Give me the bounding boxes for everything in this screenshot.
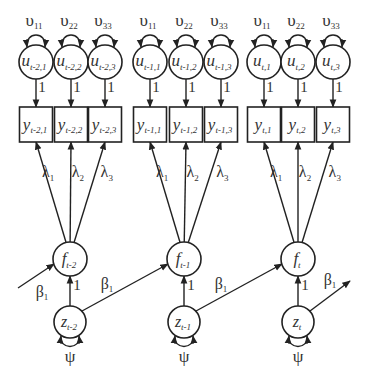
- variance-label-sub: 33: [103, 21, 113, 31]
- factor-loading: [74, 142, 105, 242]
- fixed-loading-label-base: 1: [152, 79, 160, 95]
- factor-loading: [264, 142, 294, 242]
- beta-label: β1: [324, 271, 337, 290]
- variance-label-base: υ: [139, 11, 147, 30]
- fixed-loading-label: 1: [266, 79, 274, 95]
- fixed-loading-label: 1: [152, 79, 160, 95]
- factor-node: [53, 242, 87, 276]
- indicator-label-sub: t-1,1: [144, 125, 161, 135]
- lambda-label-sub: 2: [307, 173, 312, 183]
- indicator-label-base: y: [287, 115, 297, 134]
- unique-factor-label-base: u: [90, 51, 99, 70]
- lambda-label: λ2: [187, 163, 199, 183]
- variance-label-sub: 11: [262, 21, 271, 31]
- variance-label-sub: 33: [219, 21, 229, 31]
- variance-label-base: υ: [175, 11, 183, 30]
- fixed-loading-label: 1: [38, 79, 46, 95]
- variance-label-sub: 11: [148, 21, 157, 31]
- indicator-label-base: y: [206, 115, 216, 134]
- psi-label: ψ: [179, 347, 190, 366]
- indicator-label-base: y: [253, 115, 263, 134]
- unique-factor-label-sub: t-1,1: [144, 62, 161, 72]
- beta-label: β1: [215, 275, 228, 294]
- fixed-loading-label-base: 1: [73, 79, 81, 95]
- fixed-loading-label-base: 1: [188, 79, 196, 95]
- factor-label-sub: t-1: [180, 260, 190, 270]
- lambda-label-sub: 3: [336, 173, 341, 183]
- unique-factor-label-base: u: [21, 51, 30, 70]
- beta-label-sub: 1: [44, 292, 49, 302]
- fixed-loading-label-base: 1: [335, 79, 343, 95]
- factor-node: [167, 242, 201, 276]
- indicator-label-sub: t-2,1: [30, 125, 47, 135]
- variance-label: υ11: [253, 11, 270, 31]
- beta-path: [196, 264, 282, 311]
- indicator-label-sub: t-2,2: [65, 125, 82, 135]
- lambda-label: λ3: [101, 163, 114, 183]
- fixed-loading-label-base: 1: [300, 79, 308, 95]
- unique-factor-label-sub: t-1,3: [215, 62, 232, 72]
- lambda-label-sub: 1: [278, 173, 283, 183]
- fixed-loading-label: 1: [223, 79, 231, 95]
- psi-label-base: ψ: [179, 347, 190, 366]
- beta-label: β1: [101, 275, 114, 294]
- unique-factor-label-base: u: [135, 51, 144, 70]
- lambda-label-sub: 3: [224, 173, 229, 183]
- factor-loading: [302, 142, 333, 242]
- factor-loading: [188, 142, 221, 242]
- variance-label-sub: 22: [184, 21, 193, 31]
- variance-label-sub: 11: [34, 21, 43, 31]
- psi-label-base: ψ: [65, 347, 76, 366]
- variance-label-sub: 22: [296, 21, 305, 31]
- fixed-loading-label-base: 1: [107, 79, 115, 95]
- fixed-path-label: 1: [187, 277, 195, 293]
- factor-loading: [150, 142, 180, 242]
- fixed-loading-label: 1: [188, 79, 196, 95]
- factor-loading: [36, 142, 66, 242]
- variance-label-base: υ: [322, 11, 330, 30]
- unique-factor-label-sub: t-2,2: [65, 62, 82, 72]
- indicator-label-base: y: [90, 115, 100, 134]
- factor-label-sub: t-2: [66, 260, 76, 270]
- variance-label-base: υ: [287, 11, 295, 30]
- variance-label-base: υ: [210, 11, 218, 30]
- disturbance-label-sub: t-2: [67, 322, 77, 332]
- unique-factor-label-sub: t,2: [296, 62, 306, 72]
- lambda-label-sub: 1: [164, 173, 169, 183]
- beta-label-base: β: [324, 271, 332, 289]
- factor-loading: [184, 142, 186, 242]
- beta-label-base: β: [215, 275, 223, 293]
- lambda-label: λ3: [329, 163, 342, 183]
- variance-label: υ22: [175, 11, 192, 31]
- lambda-label-sub: 2: [194, 173, 199, 183]
- indicator-label-sub: t,1: [262, 125, 271, 135]
- indicator-label-base: y: [322, 115, 332, 134]
- beta-label-sub: 1: [332, 280, 337, 290]
- unique-factor-label-base: u: [56, 51, 65, 70]
- fixed-loading-label-base: 1: [38, 79, 46, 95]
- unique-factor-label-sub: t,1: [262, 62, 271, 72]
- variance-label-base: υ: [94, 11, 102, 30]
- beta-label-base: β: [36, 283, 44, 301]
- variance-label: υ33: [210, 11, 228, 31]
- beta-label-base: β: [101, 275, 109, 293]
- lambda-label-sub: 1: [50, 173, 55, 183]
- variance-label-base: υ: [253, 11, 261, 30]
- lambda-label-sub: 3: [108, 173, 113, 183]
- disturbance-label-sub: t-1: [181, 322, 191, 332]
- variance-label-base: υ: [60, 11, 68, 30]
- indicator-label-sub: t-1,3: [215, 125, 232, 135]
- fixed-loading-label-base: 1: [266, 79, 274, 95]
- unique-factor-label-base: u: [287, 51, 296, 70]
- fixed-path-label: 1: [301, 277, 309, 293]
- unique-factor-label-base: u: [322, 51, 331, 70]
- beta-path: [82, 264, 168, 311]
- indicator-label-sub: t,3: [331, 125, 341, 135]
- variance-label: υ33: [322, 11, 340, 31]
- beta-label-sub: 1: [109, 284, 114, 294]
- fixed-path-label-base: 1: [301, 277, 309, 293]
- variance-label: υ11: [25, 11, 42, 31]
- lambda-label: λ3: [216, 163, 229, 183]
- fixed-loading-label: 1: [107, 79, 115, 95]
- variance-label: υ22: [287, 11, 304, 31]
